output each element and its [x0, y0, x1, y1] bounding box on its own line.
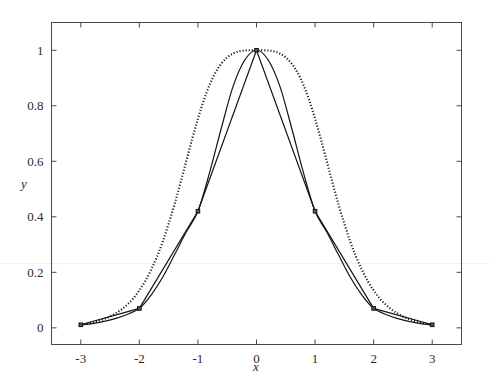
spline-interpolant-curve [81, 50, 432, 325]
y-tick-label: 0.6 [27, 154, 44, 169]
x-tick-label: 3 [429, 351, 436, 366]
plot-area: -3-2-10123 00.20.40.60.81 x y [0, 0, 489, 386]
node-marker [138, 307, 142, 311]
x-tick-label: 2 [370, 351, 377, 366]
x-tick-label: -1 [193, 351, 204, 366]
axes-box [52, 23, 462, 345]
x-tick-label: -2 [134, 351, 145, 366]
x-tick-label: 1 [312, 351, 319, 366]
y-tick-label: 1 [37, 43, 44, 58]
y-axis-tick-labels: 00.20.40.60.81 [27, 43, 44, 336]
x-tick-label: -3 [75, 351, 86, 366]
node-marker [313, 209, 317, 213]
node-marker [79, 323, 83, 327]
original-function-dotted-curve [81, 50, 432, 325]
piecewise-linear-curve [81, 50, 432, 325]
node-marker [255, 48, 259, 52]
node-marker [372, 307, 376, 311]
y-axis-label: y [19, 176, 27, 191]
figure-canvas: -3-2-10123 00.20.40.60.81 x y [0, 0, 489, 386]
y-tick-label: 0.4 [27, 209, 44, 224]
x-axis-label: x [252, 359, 259, 374]
node-markers [79, 48, 434, 326]
x-axis-ticks [81, 23, 432, 345]
node-marker [196, 209, 200, 213]
y-axis-ticks [52, 50, 462, 328]
y-tick-label: 0 [37, 320, 44, 335]
y-tick-label: 0.8 [27, 98, 43, 113]
node-marker [430, 323, 434, 327]
y-tick-label: 0.2 [27, 265, 43, 280]
